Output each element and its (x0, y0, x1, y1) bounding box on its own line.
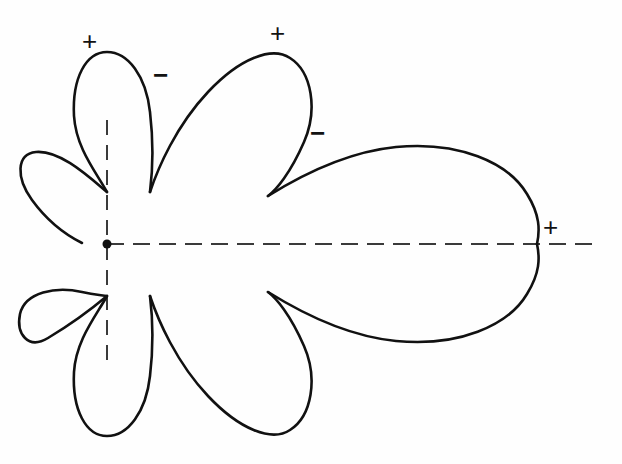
origin-dot (103, 240, 112, 249)
polarity-label-minus-upper-right: − (310, 120, 325, 146)
upper-left-lobe-curve (74, 52, 152, 192)
main-lobe-lower-curve (268, 244, 539, 342)
polar-pattern-plot (0, 0, 622, 464)
lower-left-lobe-curve (74, 296, 152, 436)
lower-middle-lobe-curve (150, 292, 312, 435)
polarity-label-plus-upper-mid: + (270, 20, 285, 46)
radiation-pattern-figure: + − + − + (0, 0, 622, 464)
upper-back-lobe-curve (20, 152, 107, 243)
upper-middle-lobe-curve (150, 53, 312, 196)
main-lobe-upper-curve (268, 146, 539, 244)
polarity-label-minus-upper-left: − (153, 62, 168, 88)
polarity-label-plus-main-lobe: + (543, 214, 558, 240)
polarity-label-plus-upper-left: + (82, 28, 97, 54)
